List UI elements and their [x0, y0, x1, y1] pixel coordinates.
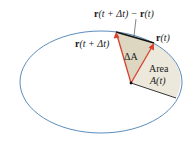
r-t-text: (t)	[160, 32, 169, 43]
r-tdt-text: (t + Δt)	[79, 38, 109, 49]
label-r-t-plus-dt: r(t + Δt)	[75, 39, 109, 49]
label-difference-vector: r(t + Δt) − r(t)	[94, 9, 154, 19]
area-word-text: Area	[149, 63, 168, 74]
delta-a-text: ΔA	[124, 51, 138, 62]
label-delta-a: ΔA	[124, 52, 138, 62]
area-func-text: A(t)	[150, 75, 166, 86]
diff-text: (t + Δt) −	[98, 8, 140, 19]
label-leader-line	[134, 19, 136, 36]
label-area-function: A(t)	[150, 76, 166, 86]
label-r-t: r(t)	[156, 33, 170, 43]
label-area-word: Area	[149, 64, 168, 74]
diff-tail: (t)	[145, 8, 154, 19]
focus-point	[130, 82, 133, 85]
